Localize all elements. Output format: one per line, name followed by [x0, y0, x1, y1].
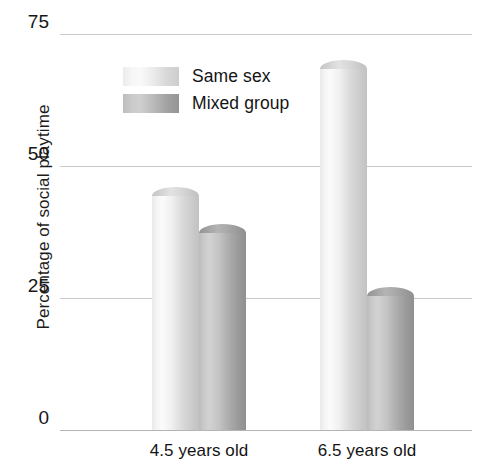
bar-body	[367, 296, 414, 430]
bar-body	[320, 69, 367, 430]
gridline-50: 50	[60, 166, 472, 167]
bar-same-sex-4-5-years	[152, 187, 199, 430]
y-tick-label-0: 0	[38, 408, 49, 430]
gridline-75: 75	[60, 34, 472, 35]
bar-mixed-group-4-5-years	[199, 224, 246, 430]
x-tick-label-4-5-years: 4.5 years old	[150, 441, 249, 461]
bar-same-sex-6-5-years	[320, 60, 367, 430]
y-tick-label-50: 50	[28, 144, 49, 166]
legend: Same sex Mixed group	[123, 63, 289, 117]
bar-body	[152, 196, 199, 430]
y-tick-label-75: 75	[28, 12, 49, 34]
bar-chart: Percentage of social playtime 75 50 25 0	[0, 0, 488, 473]
y-tick-label-25: 25	[28, 276, 49, 298]
legend-swatch-mixed-group	[123, 94, 179, 113]
legend-label-same-sex: Same sex	[192, 66, 271, 87]
legend-item-mixed-group: Mixed group	[123, 90, 289, 117]
legend-item-same-sex: Same sex	[123, 63, 289, 90]
y-axis-title: Percentage of social playtime	[34, 52, 54, 382]
bar-body	[199, 233, 246, 430]
legend-label-mixed-group: Mixed group	[192, 93, 289, 114]
legend-swatch-same-sex	[123, 67, 179, 86]
gridline-0-baseline: 0	[60, 430, 472, 431]
x-tick-label-6-5-years: 6.5 years old	[318, 441, 417, 461]
bar-mixed-group-6-5-years	[367, 287, 414, 430]
